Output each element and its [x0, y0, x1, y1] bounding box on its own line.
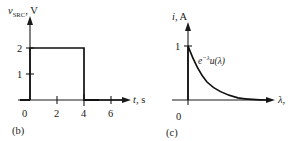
origin-label-c: 0 — [176, 111, 181, 122]
x-origin-label-b: 0 — [22, 108, 27, 119]
chart-panel-c: i, A λ, 1 0 e−λu(λ) (c) — [150, 0, 303, 141]
x-ticklabel-2-b: 2 — [54, 108, 59, 119]
y-ticklabel-1-c: 1 — [175, 41, 180, 52]
x-ticklabel-4-b: 4 — [81, 108, 87, 119]
y-axis-label-c: i, A — [172, 11, 188, 22]
y-ticklabel-2-b: 2 — [17, 43, 22, 54]
figure-container: vSRC, V t, s 1 2 0 2 4 6 (b) — [0, 0, 303, 141]
curve-annotation-c: e−λu(λ) — [198, 54, 225, 67]
x-ticklabel-6-b: 6 — [108, 108, 113, 119]
chart-b-svg: vSRC, V t, s 1 2 0 2 4 6 (b) — [0, 0, 151, 141]
y-axis-label-b: vSRC, V — [8, 5, 38, 18]
x-axis-label-c: λ, — [277, 94, 285, 105]
exponential-decay-curve-c — [188, 46, 268, 100]
x-axis-label-b: t, s — [133, 94, 145, 105]
chart-panel-b: vSRC, V t, s 1 2 0 2 4 6 (b) — [0, 0, 151, 141]
pulse-waveform-b — [30, 48, 122, 100]
y-ticklabel-1-b: 1 — [17, 69, 22, 80]
panel-caption-b: (b) — [12, 125, 25, 137]
chart-c-svg: i, A λ, 1 0 e−λu(λ) (c) — [150, 0, 303, 141]
panel-caption-c: (c) — [166, 127, 178, 139]
